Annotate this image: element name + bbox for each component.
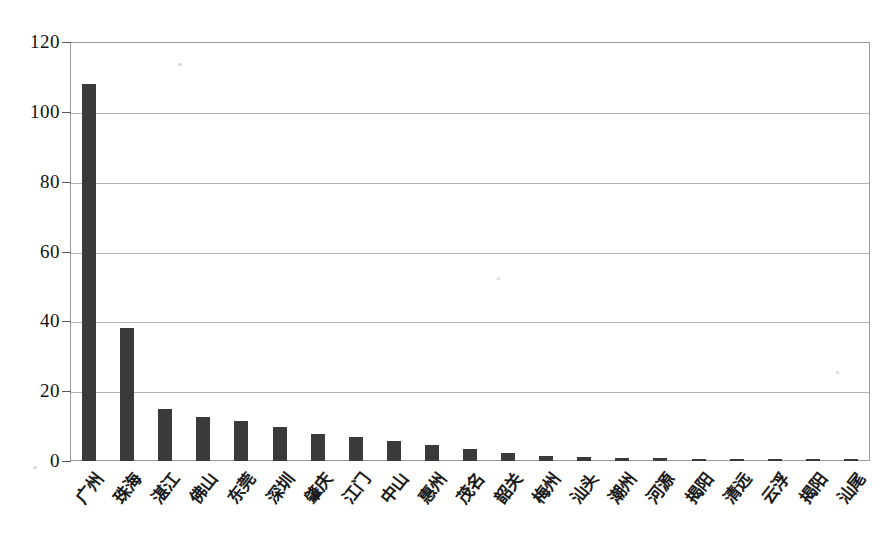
x-label-slot: 佛山: [184, 461, 222, 551]
bar-slot: [603, 42, 641, 461]
bar[interactable]: [387, 441, 401, 461]
bar-slot: [337, 42, 375, 461]
x-label-slot: 江门: [337, 461, 375, 551]
x-label-slot: 汕头: [565, 461, 603, 551]
x-tick-label: 潮州: [605, 469, 640, 507]
x-tick-label: 揭阳: [796, 469, 831, 507]
bar-slot: [565, 42, 603, 461]
x-label-slot: 河源: [641, 461, 679, 551]
x-label-slot: 肇庆: [299, 461, 337, 551]
x-label-slot: 汕尾: [832, 461, 870, 551]
bar[interactable]: [234, 421, 248, 461]
x-tick-label: 中山: [377, 469, 412, 507]
y-tick-label: 100: [4, 102, 60, 121]
bar-slot: [108, 42, 146, 461]
bars-layer: [70, 42, 870, 461]
bar[interactable]: [501, 453, 515, 461]
bar-slot: [527, 42, 565, 461]
x-tick-label: 湛江: [148, 469, 183, 507]
y-tick-label: 20: [4, 381, 60, 400]
bar[interactable]: [120, 328, 134, 461]
bar[interactable]: [425, 445, 439, 461]
y-tick-label: 40: [4, 311, 60, 330]
x-tick-label: 佛山: [186, 469, 221, 507]
x-label-slot: 珠海: [108, 461, 146, 551]
bar-slot: [451, 42, 489, 461]
bar[interactable]: [273, 427, 287, 461]
x-tick-label: 梅州: [529, 469, 564, 507]
x-label-slot: 清远: [718, 461, 756, 551]
x-tick-label: 揭阳: [682, 469, 717, 507]
x-tick-label: 韶关: [491, 469, 526, 507]
x-label-slot: 韶关: [489, 461, 527, 551]
bar[interactable]: [82, 84, 96, 461]
bar-slot: [756, 42, 794, 461]
x-label-slot: 梅州: [527, 461, 565, 551]
bar[interactable]: [311, 434, 325, 461]
bar-slot: [641, 42, 679, 461]
bar-slot: [680, 42, 718, 461]
x-tick-label: 茂名: [453, 469, 488, 507]
x-label-slot: 东莞: [222, 461, 260, 551]
bar-slot: [299, 42, 337, 461]
x-tick-label: 广州: [72, 469, 107, 507]
bar-slot: [222, 42, 260, 461]
x-axis-labels: 广州珠海湛江佛山东莞深圳肇庆江门中山惠州茂名韶关梅州汕头潮州河源揭阳清远云浮揭阳…: [70, 461, 870, 551]
bar-slot: [832, 42, 870, 461]
bar-slot: [489, 42, 527, 461]
x-tick-label: 肇庆: [301, 469, 336, 507]
x-label-slot: 茂名: [451, 461, 489, 551]
x-tick-label: 清远: [720, 469, 755, 507]
x-tick-label: 深圳: [263, 469, 298, 507]
x-label-slot: 惠州: [413, 461, 451, 551]
bar[interactable]: [463, 449, 477, 461]
bar-chart: 020406080100120 广州珠海湛江佛山东莞深圳肇庆江门中山惠州茂名韶关…: [0, 0, 894, 551]
y-tick-label: 60: [4, 242, 60, 261]
x-label-slot: 揭阳: [794, 461, 832, 551]
x-tick-label: 汕尾: [834, 469, 869, 507]
y-tick-label: 120: [4, 32, 60, 51]
x-label-slot: 中山: [375, 461, 413, 551]
bar-slot: [260, 42, 298, 461]
bar-slot: [146, 42, 184, 461]
bar-slot: [413, 42, 451, 461]
bar[interactable]: [158, 409, 172, 461]
x-tick-label: 珠海: [110, 469, 145, 507]
bar-slot: [375, 42, 413, 461]
x-tick-label: 河源: [644, 469, 679, 507]
bar[interactable]: [196, 417, 210, 461]
x-tick-label: 汕头: [567, 469, 602, 507]
x-tick-label: 东莞: [224, 469, 259, 507]
x-label-slot: 深圳: [260, 461, 298, 551]
bar-slot: [794, 42, 832, 461]
x-label-slot: 潮州: [603, 461, 641, 551]
x-tick-label: 江门: [339, 469, 374, 507]
bar[interactable]: [349, 437, 363, 461]
x-tick-label: 云浮: [758, 469, 793, 507]
x-label-slot: 广州: [70, 461, 108, 551]
x-label-slot: 云浮: [756, 461, 794, 551]
bar-slot: [70, 42, 108, 461]
y-tick-label: 0: [4, 451, 60, 470]
y-tick-label: 80: [4, 172, 60, 191]
x-label-slot: 湛江: [146, 461, 184, 551]
bar-slot: [718, 42, 756, 461]
x-tick-label: 惠州: [415, 469, 450, 507]
bar-slot: [184, 42, 222, 461]
x-label-slot: 揭阳: [680, 461, 718, 551]
